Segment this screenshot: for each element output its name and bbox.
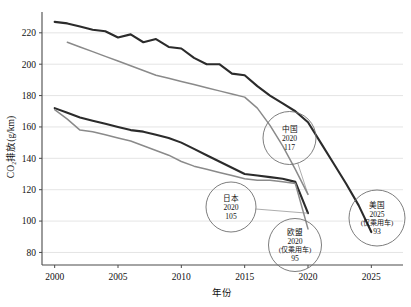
y-tick-labels: 80100120140160180200220 <box>22 28 42 258</box>
annotation-line-usa: 93 <box>373 227 381 236</box>
annotation-leaders <box>256 163 308 213</box>
annotation-line-japan: 105 <box>225 212 237 221</box>
y-tick-label: 100 <box>22 216 37 226</box>
y-tick-label: 160 <box>22 122 37 132</box>
annotation-line-usa: 美国 <box>369 200 385 210</box>
x-tick-label: 2020 <box>299 272 318 282</box>
x-tick-label: 2010 <box>172 272 191 282</box>
y-tick-label: 120 <box>22 185 37 195</box>
x-tick-labels: 200020052010201520202025 <box>45 265 381 282</box>
x-axis-title: 年份 <box>212 287 232 298</box>
annotation-line-japan: 日本 <box>223 193 239 203</box>
x-tick-label: 2025 <box>362 272 381 282</box>
series-line-欧盟 <box>55 110 308 229</box>
annotation-line-eu: 2020 <box>287 237 302 246</box>
annotation-line-eu: 95 <box>291 254 299 263</box>
annotation-line-eu: 欧盟 <box>287 227 303 237</box>
y-tick-label: 200 <box>22 60 37 70</box>
annotation-leader-japan <box>256 209 308 213</box>
annotation-line-china: 中国 <box>282 124 298 134</box>
co2-emissions-line-chart: 80100120140160180200220 2000200520102015… <box>0 0 411 307</box>
annotation-circles: 中国2020117日本2020105欧盟2020(仅乘用车)95美国2025(仅… <box>206 112 405 272</box>
annotation-line-china: 117 <box>284 143 295 152</box>
y-tick-label: 80 <box>27 248 37 258</box>
y-axis <box>42 12 403 265</box>
annotation-line-usa: 2025 <box>369 210 384 219</box>
chart-figure: 80100120140160180200220 2000200520102015… <box>0 0 411 307</box>
x-tick-label: 2005 <box>109 272 128 282</box>
y-axis-title: CO₂排放(g/km) <box>5 116 17 178</box>
y-tick-label: 140 <box>22 154 37 164</box>
y-tick-label: 220 <box>22 28 37 38</box>
x-tick-label: 2000 <box>45 272 64 282</box>
y-tick-label: 180 <box>22 91 37 101</box>
x-tick-label: 2015 <box>235 272 254 282</box>
